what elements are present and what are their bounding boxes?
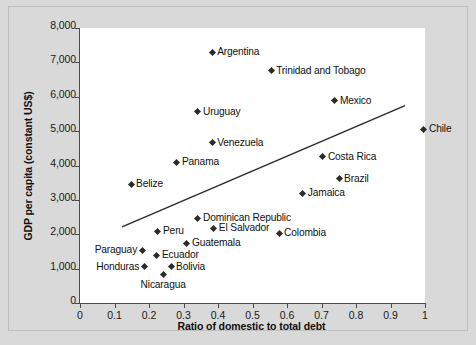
- data-point-label: Brazil: [344, 174, 369, 184]
- y-tick-label: 5,000: [50, 123, 76, 134]
- data-point-label: Honduras: [96, 262, 139, 272]
- chart-figure: GDP per capita (constant US$) ArgentinaT…: [0, 0, 476, 345]
- x-tick-mark: [80, 303, 81, 308]
- x-tick-label: 0.6: [280, 310, 295, 321]
- data-point-marker[interactable]: [420, 126, 427, 133]
- x-tick-label: 0.9: [383, 310, 398, 321]
- data-point-label: Nicaragua: [141, 280, 186, 290]
- x-tick-mark: [253, 303, 254, 308]
- plot-canvas: ArgentinaTrinidad and TobagoMexicoUrugua…: [80, 28, 425, 303]
- data-point-label: Argentina: [217, 47, 259, 57]
- data-point-label: Colombia: [284, 228, 326, 238]
- x-tick-mark: [287, 303, 288, 308]
- x-tick-mark: [115, 303, 116, 308]
- data-point-label: Mexico: [340, 96, 371, 106]
- y-tick-label: 2,000: [50, 226, 76, 237]
- plot-area: ArgentinaTrinidad and TobagoMexicoUrugua…: [79, 28, 425, 304]
- x-tick-mark: [149, 303, 150, 308]
- chart-frame: GDP per capita (constant US$) ArgentinaT…: [8, 6, 468, 331]
- y-tick-label: 1,000: [50, 261, 76, 272]
- data-point-label: Costa Rica: [328, 152, 376, 162]
- y-axis-title-text: GDP per capita (constant US$): [22, 91, 34, 240]
- data-point-label: Paraguay: [95, 245, 137, 255]
- y-tick-label: 7,000: [50, 54, 76, 65]
- x-axis-title: Ratio of domestic to total debt: [79, 320, 424, 332]
- data-point-label: Peru: [163, 226, 184, 236]
- y-tick-label: 6,000: [50, 89, 76, 100]
- trendline-segment: [122, 106, 405, 227]
- data-point-label: El Salvador: [219, 223, 269, 233]
- x-tick-label: 0: [77, 310, 83, 321]
- x-tick-label: 0.4: [211, 310, 226, 321]
- x-tick-mark: [391, 303, 392, 308]
- x-tick-mark: [356, 303, 357, 308]
- data-point-label: Bolivia: [176, 262, 205, 272]
- data-point-label: Belize: [136, 179, 163, 189]
- data-point-label: Trinidad and Tobago: [276, 66, 365, 76]
- x-tick-label: 0.3: [176, 310, 191, 321]
- x-tick-label: 0.8: [349, 310, 364, 321]
- data-point-label: Jamaica: [308, 188, 345, 198]
- x-tick-label: 0.1: [107, 310, 122, 321]
- data-point-label: Ecuador: [162, 250, 199, 260]
- x-tick-label: 0.5: [245, 310, 260, 321]
- x-tick-mark: [322, 303, 323, 308]
- x-tick-label: 0.7: [314, 310, 329, 321]
- y-tick-label: 4,000: [50, 158, 76, 169]
- x-tick-label: 1: [422, 310, 428, 321]
- data-point-label: Panama: [182, 157, 219, 167]
- y-axis-title: GDP per capita (constant US$): [21, 28, 35, 303]
- data-point-label: Venezuela: [217, 138, 263, 148]
- x-tick-mark: [425, 303, 426, 308]
- y-tick-label: 0: [70, 295, 76, 306]
- y-tick-label: 3,000: [50, 192, 76, 203]
- data-point-label: Chile: [429, 124, 451, 134]
- data-point-label: Guatemala: [192, 238, 240, 248]
- x-tick-mark: [184, 303, 185, 308]
- y-tick-label: 8,000: [50, 20, 76, 31]
- data-point-label: Uruguay: [203, 107, 240, 117]
- x-tick-label: 0.2: [142, 310, 157, 321]
- x-tick-mark: [218, 303, 219, 308]
